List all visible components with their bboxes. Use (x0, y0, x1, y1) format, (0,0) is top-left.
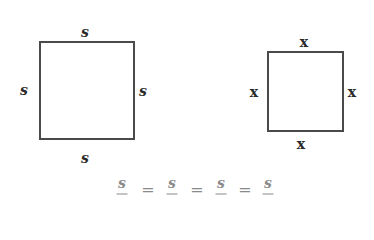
square-x (267, 51, 344, 132)
square-x-label-top: x (300, 35, 308, 49)
equation-term-4: s (263, 176, 274, 195)
square-x-label-right: x (348, 85, 356, 99)
equation-equals-3: = (238, 183, 251, 197)
square-x-label-bottom: x (297, 137, 305, 151)
square-s-label-right: s (139, 84, 147, 98)
square-x-label-left: x (250, 85, 258, 99)
equation-term-2: s (167, 176, 178, 195)
square-s-label-top: s (81, 25, 89, 39)
equation-equals-1: = (141, 183, 154, 197)
square-s (39, 41, 135, 140)
equation-equals-2: = (190, 183, 203, 197)
equation-term-3: s (216, 176, 227, 195)
square-s-label-bottom: s (81, 151, 89, 165)
square-s-label-left: s (20, 83, 28, 97)
equation-term-1: s (117, 176, 128, 195)
